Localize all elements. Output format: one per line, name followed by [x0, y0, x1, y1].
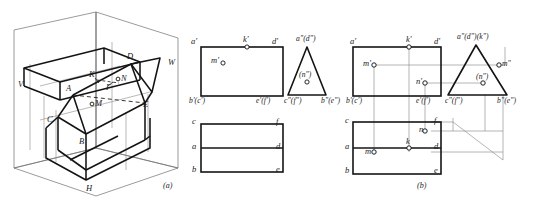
label-tv-d-a: d	[276, 142, 280, 151]
front-view-outline-b	[353, 47, 441, 96]
label-tv-b-a: b	[192, 165, 196, 174]
vertex-label-b: B	[79, 137, 84, 146]
label-fvb-m-prime: m'	[363, 59, 371, 68]
plane-label-h: H	[86, 184, 92, 193]
point-marker-n-side-b	[481, 81, 485, 85]
label-tvb-n: n	[419, 125, 423, 134]
label-tvb-b: b	[345, 166, 349, 175]
label-tvb-m: m	[365, 147, 371, 156]
side-view-outline-b	[448, 45, 507, 95]
point-marker-n-side-a	[305, 80, 309, 84]
label-fv-bc-prime: b'(c')	[189, 97, 205, 105]
label-sv-cf-a: c"(f")	[284, 97, 302, 105]
label-fvb-n-prime: n'	[416, 77, 422, 86]
label-svb-be: b"(e")	[497, 97, 516, 105]
point-marker-n	[116, 77, 120, 81]
point-marker-m-prime-a	[221, 61, 225, 65]
label-fvb-a-prime: a'	[350, 37, 356, 46]
point-marker-k-top-b	[407, 146, 411, 150]
label-tvb-c: c	[345, 116, 349, 125]
figure-canvas: V W H A B C D E F K M N a' k' d' m' b'(c…	[0, 0, 535, 210]
label-tvb-f: f	[434, 116, 436, 125]
label-tvb-k: k	[406, 137, 410, 146]
point-marker-m-top-b	[372, 150, 376, 154]
label-tv-c-a: c	[192, 117, 196, 126]
point-marker-m-prime-b	[372, 63, 376, 67]
label-sv-n-a: (n")	[299, 71, 311, 79]
label-tv-f-a: f	[276, 117, 278, 126]
vertex-label-e: E	[143, 100, 148, 109]
vertex-label-a: A	[66, 84, 71, 93]
projection-lines-b	[374, 47, 505, 160]
label-tv-e-a: e	[276, 165, 280, 174]
label-fv-d-prime: d'	[272, 37, 278, 46]
label-tv-a-a: a	[192, 142, 196, 151]
label-svb-m: m"	[502, 60, 511, 68]
caption-a: (a)	[163, 182, 173, 190]
label-tvb-d: d	[434, 142, 438, 151]
label-svb-adk: a"(d")(k")	[457, 33, 489, 41]
point-label-n: N	[121, 74, 127, 83]
vertex-label-d: D	[127, 52, 133, 61]
point-marker-n-top-b	[423, 129, 427, 133]
vertex-label-f: F	[106, 84, 111, 92]
label-fv-ef-prime: e'(f')	[256, 97, 270, 105]
label-fvb-d-prime: d'	[434, 37, 440, 46]
caption-b: (b)	[417, 182, 427, 190]
views-group-b	[335, 0, 535, 210]
point-marker-m	[90, 102, 94, 106]
vertex-label-c: C	[47, 115, 53, 124]
point-marker-k-prime-a	[245, 45, 249, 49]
solid-object	[24, 48, 160, 180]
point-marker-n-prime-b	[423, 81, 427, 85]
label-fv-a-prime: a'	[191, 37, 197, 46]
label-tvb-a: a	[345, 142, 349, 151]
label-fvb-bc-prime: b'(c')	[346, 97, 362, 105]
point-label-m: M	[95, 99, 102, 108]
label-fvb-ef-prime: e'(f')	[416, 97, 430, 105]
point-marker-m-side-b	[497, 63, 501, 67]
plane-label-w: W	[168, 58, 175, 67]
label-fvb-k-prime: k'	[406, 35, 412, 44]
point-marker-k-prime-b	[407, 45, 411, 49]
label-svb-cf: c"(f")	[445, 97, 463, 105]
views-group-a	[185, 0, 345, 210]
label-fv-k-prime: k'	[243, 35, 249, 44]
label-svb-n: (n")	[476, 73, 488, 81]
plane-label-v: V	[18, 80, 23, 89]
label-sv-ad-a: a"(d")	[296, 35, 316, 43]
vertex-label-k: K	[89, 70, 95, 79]
label-fv-m-prime: m'	[211, 56, 219, 65]
label-tvb-e: e	[434, 166, 438, 175]
